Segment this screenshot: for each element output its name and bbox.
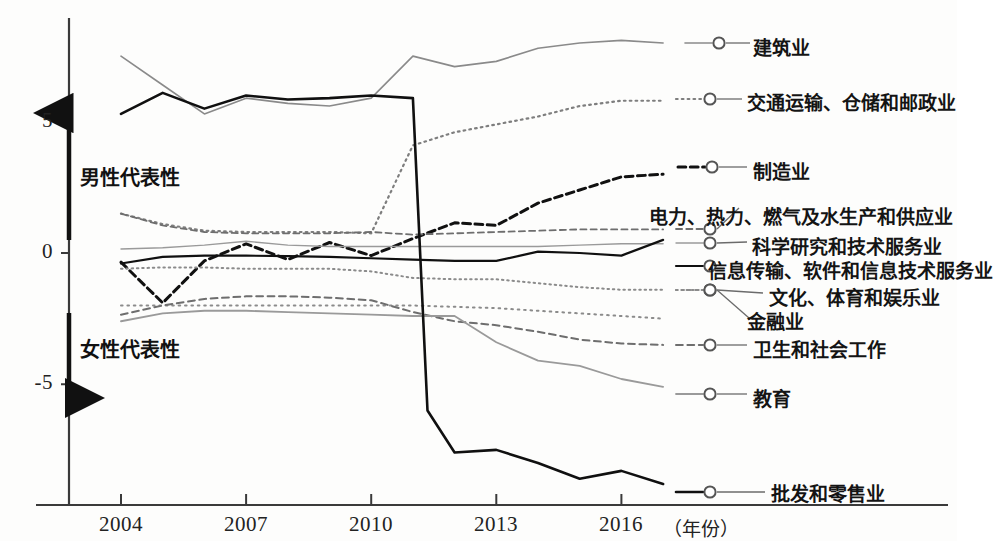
legend-label-information-tech[interactable]: 信息传输、软件和信息技术服务业 [708, 256, 993, 283]
legend-marker-教育[interactable] [704, 388, 715, 399]
legend-marker-科学研究和技术服务业[interactable] [704, 237, 715, 248]
legend-label-education[interactable]: 教育 [753, 384, 791, 411]
legend-label-culture-sports[interactable]: 文化、体育和娱乐业 [769, 283, 940, 310]
series-line-卫生和社会工作 [121, 296, 663, 345]
x-axis-ticks [121, 494, 621, 505]
legend-marker-交通运输仓储和邮政业[interactable] [704, 93, 715, 104]
series-line-电力热力燃气及水生产 [121, 214, 663, 235]
series-line-科学研究和技术服务业 [121, 241, 663, 249]
legend-label-finance[interactable]: 金融业 [747, 307, 804, 334]
legend-leader-文化体育和娱乐业 [717, 290, 763, 293]
legend-marker-批发和零售业[interactable] [704, 486, 715, 497]
legend-label-scientific-research[interactable]: 科学研究和技术服务业 [752, 232, 942, 259]
legend-label-health-social-work[interactable]: 卫生和社会工作 [753, 335, 886, 362]
x-tick-label-2013: 2013 [451, 512, 541, 537]
series-line-教育 [121, 311, 663, 387]
x-tick-label-2016: 2016 [576, 512, 666, 537]
y-tick-label-0: 0 [5, 239, 53, 264]
legend-label-transport-storage-post[interactable]: 交通运输、仓储和邮政业 [747, 88, 956, 115]
x-tick-label-2004: 2004 [76, 512, 166, 537]
legend-marker-制造业[interactable] [706, 161, 717, 172]
series-line-批发和零售业 [121, 93, 663, 484]
x-tick-label-2007: 2007 [201, 512, 291, 537]
series-line-信息传输软件和信息技 [121, 240, 663, 264]
legend-marker-卫生和社会工作[interactable] [704, 339, 715, 350]
legend-marker-建筑业[interactable] [713, 37, 724, 48]
series-line-制造业 [121, 174, 663, 303]
female-representation-label: 女性代表性 [80, 334, 180, 363]
legend-label-utilities[interactable]: 电力、热力、燃气及水生产和供应业 [649, 202, 953, 229]
legend-leader-金融业 [717, 290, 749, 318]
x-axis-unit-label: （年份） [663, 514, 739, 541]
series-line-金融业 [121, 306, 663, 319]
series-layer [121, 40, 663, 484]
legend-label-wholesale-retail[interactable]: 批发和零售业 [771, 479, 885, 506]
legend-label-construction[interactable]: 建筑业 [753, 33, 810, 60]
legend-marker-金融业[interactable] [704, 284, 715, 295]
y-tick-label-5: 5 [5, 108, 53, 133]
y-tick-label-minus5: -5 [5, 370, 53, 395]
series-line-建筑业 [121, 40, 663, 114]
legend-leader-科学研究和技术服务业 [717, 242, 747, 243]
series-line-文化体育和娱乐业 [121, 267, 663, 289]
series-line-交通运输仓储和邮政业 [121, 101, 663, 234]
male-representation-label: 男性代表性 [80, 162, 180, 191]
legend-label-manufacturing[interactable]: 制造业 [753, 157, 810, 184]
x-tick-label-2010: 2010 [326, 512, 416, 537]
